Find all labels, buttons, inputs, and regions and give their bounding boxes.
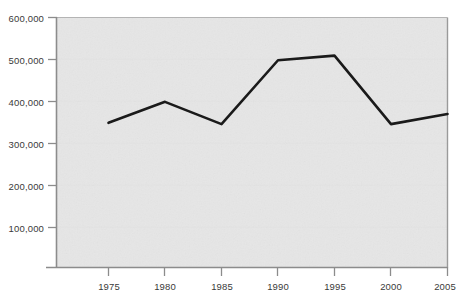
x-tick-label-1975: 1975 (98, 281, 120, 292)
y-tick-label-200000: 200,000 (0, 181, 44, 192)
x-tick-marks (109, 267, 448, 276)
x-tick-label-1990: 1990 (267, 281, 289, 292)
y-tick-label-400000: 400,000 (0, 97, 44, 108)
x-tick-label-2005: 2005 (434, 281, 456, 292)
x-tick-label-1995: 1995 (324, 281, 346, 292)
y-tick-label-500000: 500,000 (0, 55, 44, 66)
y-tick-label-300000: 300,000 (0, 139, 44, 150)
x-tick-label-2000: 2000 (380, 281, 402, 292)
chart-canvas (0, 0, 460, 297)
x-tick-label-1980: 1980 (154, 281, 176, 292)
y-tick-marks (48, 18, 57, 228)
line-chart: 600,000 500,000 400,000 300,000 200,000 … (0, 0, 460, 297)
y-tick-label-100000: 100,000 (0, 223, 44, 234)
y-tick-label-600000: 600,000 (0, 13, 44, 24)
x-tick-label-1985: 1985 (211, 281, 233, 292)
